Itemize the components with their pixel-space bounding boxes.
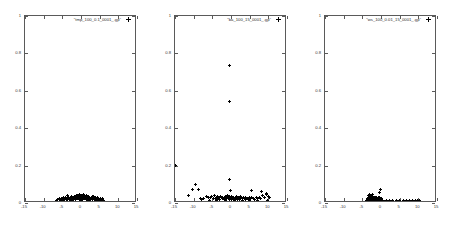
legend-key: "ws_100_0.01_15_0001_.gp"	[366, 17, 431, 22]
x-tick-label: -5	[209, 204, 213, 209]
x-tick	[137, 16, 138, 19]
legend-label: "tmp_100_0.1_0001_.gp"	[74, 17, 121, 22]
data-point	[266, 199, 269, 202]
x-tick-label: 15	[134, 204, 139, 209]
data-point	[187, 194, 190, 197]
x-tick-label: 5	[397, 204, 399, 209]
y-tick	[325, 203, 328, 204]
data-point	[197, 188, 200, 191]
data-point	[191, 188, 194, 191]
data-point	[418, 199, 421, 201]
y-tick	[132, 203, 135, 204]
x-tick-label: -15	[21, 204, 27, 209]
data-point	[175, 164, 177, 167]
data-point	[78, 193, 81, 196]
x-tick-label: -15	[321, 204, 327, 209]
x-tick	[287, 16, 288, 19]
y-tick-label: 0.6	[154, 87, 171, 92]
data-point	[256, 199, 259, 201]
data-points-layer	[325, 16, 435, 201]
data-point	[55, 199, 58, 201]
plot-panel-0: -15-10-505101500.20.40.60.81"tmp_100_0.1…	[0, 0, 150, 225]
data-point	[383, 200, 386, 201]
y-tick-label: 0.2	[304, 162, 321, 167]
legend-key: "tmp_100_0.1_0001_.gp"	[74, 17, 131, 22]
plot-panel-2: -15-10-505101500.20.40.60.81"ws_100_0.01…	[300, 0, 450, 225]
y-tick-label: 0.2	[154, 162, 171, 167]
y-tick	[25, 203, 28, 204]
x-tick	[287, 198, 288, 201]
data-point	[199, 197, 202, 200]
y-tick-label: 1	[4, 13, 21, 18]
x-tick-label: 10	[415, 204, 420, 209]
y-tick	[282, 203, 285, 204]
data-point	[87, 199, 90, 201]
data-point	[66, 194, 69, 197]
y-tick-label: 0	[4, 200, 21, 205]
plot-frame: "tmp_100_0.1_0001_.gp"	[24, 15, 136, 202]
y-tick-label: 0	[154, 200, 171, 205]
x-tick	[437, 198, 438, 201]
data-points-layer	[25, 16, 135, 201]
x-tick-label: 15	[284, 204, 289, 209]
data-point	[102, 199, 105, 201]
data-point	[241, 199, 244, 201]
data-point	[215, 199, 218, 201]
legend-key: "ba_100_15_0001_.gp"	[227, 17, 281, 22]
data-point	[228, 100, 231, 103]
data-point	[228, 64, 231, 67]
data-point	[250, 189, 253, 192]
x-tick-label: -10	[340, 204, 346, 209]
x-tick-label: 0	[229, 204, 231, 209]
x-tick-label: 15	[434, 204, 439, 209]
data-point	[364, 200, 367, 201]
data-point	[224, 199, 227, 201]
x-tick-label: 0	[379, 204, 381, 209]
data-point	[260, 190, 263, 193]
x-tick-label: -10	[40, 204, 46, 209]
y-tick-label: 0.2	[4, 162, 21, 167]
data-point	[94, 199, 97, 201]
y-tick-label: 0.4	[304, 125, 321, 130]
data-point	[69, 199, 72, 201]
x-tick-label: 5	[247, 204, 249, 209]
y-tick-label: 0.4	[154, 125, 171, 130]
x-tick-label: 10	[115, 204, 120, 209]
x-tick-label: -10	[190, 204, 196, 209]
data-point	[378, 191, 381, 194]
legend-label: "ws_100_0.01_15_0001_.gp"	[366, 17, 421, 22]
y-tick-label: 1	[154, 13, 171, 18]
data-point	[194, 183, 197, 186]
y-tick-label: 0.8	[304, 50, 321, 55]
data-point	[92, 195, 95, 198]
x-tick-label: -15	[171, 204, 177, 209]
y-tick-label: 0.8	[154, 50, 171, 55]
data-point	[379, 200, 382, 201]
x-tick	[437, 16, 438, 19]
plot-frame: "ws_100_0.01_15_0001_.gp"	[324, 15, 436, 202]
x-tick-label: 10	[265, 204, 270, 209]
y-tick-label: 0.6	[4, 87, 21, 92]
x-tick-label: -5	[359, 204, 363, 209]
x-tick-label: -5	[59, 204, 63, 209]
data-point	[80, 199, 83, 201]
x-tick-label: 0	[79, 204, 81, 209]
data-point	[233, 199, 236, 201]
data-point	[228, 178, 231, 181]
y-tick-label: 1	[304, 13, 321, 18]
data-point	[208, 199, 211, 201]
x-tick	[137, 198, 138, 201]
y-tick	[175, 203, 178, 204]
data-point	[82, 193, 85, 196]
y-tick	[432, 203, 435, 204]
data-points-layer	[175, 16, 285, 201]
y-tick-label: 0.6	[304, 87, 321, 92]
plot-panel-1: -15-10-505101500.20.40.60.81"ba_100_15_0…	[150, 0, 300, 225]
legend-plus-marker-icon	[276, 17, 281, 22]
legend-plus-marker-icon	[426, 17, 431, 22]
data-point	[248, 199, 251, 201]
data-point	[229, 189, 232, 192]
x-tick-label: 5	[97, 204, 99, 209]
legend-plus-marker-icon	[126, 17, 131, 22]
legend-label: "ba_100_15_0001_.gp"	[227, 17, 271, 22]
